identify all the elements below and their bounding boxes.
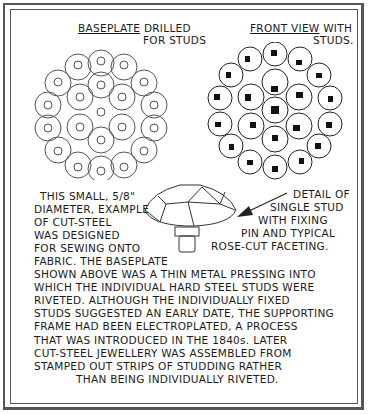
left-caption-line: OF CUT-STEEL (34, 216, 112, 229)
body-line: THAT WAS INTRODUCED IN THE 1840s. LATER (34, 334, 287, 347)
body-line: THAN BEING INDIVIDUALLY RIVETED. (76, 373, 279, 386)
body-line: CUT-STEEL JEWELLERY WAS ASSEMBLED FROM (34, 347, 292, 360)
body-line: SHOWN ABOVE WAS A THIN METAL PRESSING IN… (34, 268, 316, 281)
detail-caption-line: ROSE-CUT FACETING. (211, 240, 329, 253)
baseplate-drawing (30, 45, 180, 180)
detail-caption-line: WITH FIXING (258, 214, 328, 227)
left-caption-line: WAS DESIGNED (34, 229, 120, 242)
front-view-title-rest: WITH (323, 22, 352, 34)
front-view-title-underlined: FRONT VIEW (250, 22, 320, 34)
left-caption-line: FOR SEWING ONTO (34, 242, 140, 255)
front-view-drawing (195, 42, 355, 182)
detail-caption-line: PIN AND TYPICAL (241, 227, 335, 240)
body-line: FRAME HAD BEEN ELECTROPLATED, A PROCESS (34, 320, 298, 333)
body-line: WHICH THE INDIVIDUAL HARD STEEL STUDS WE… (34, 281, 315, 294)
left-caption-line: DIAMETER, EXAMPLE (34, 203, 149, 216)
detail-caption-line: DETAIL OF (293, 188, 350, 201)
baseplate-title-rest: DRILLED (144, 22, 191, 34)
body-line: RIVETED. ALTHOUGH THE INDIVIDUALLY FIXED (34, 294, 290, 307)
baseplate-title-underlined: BASEPLATE (78, 22, 140, 34)
body-line: STAMPED OUT STRIPS OF STUDDING RATHER (34, 360, 282, 373)
body-line: STUDS SUGGESTED AN EARLY DATE, THE SUPPO… (34, 307, 334, 320)
detail-caption-line: SINGLE STUD (270, 201, 344, 214)
left-caption-line: THIS SMALL, 5/8" (40, 190, 135, 203)
